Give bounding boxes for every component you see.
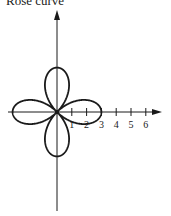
axes — [8, 10, 162, 211]
rose-curve-plot: 123456 — [0, 0, 171, 216]
y-axis-arrow-icon — [54, 10, 60, 20]
x-tick-label: 4 — [114, 119, 119, 130]
x-tick-label: 1 — [69, 119, 74, 130]
x-tick-label: 2 — [84, 119, 89, 130]
origin-point — [55, 110, 59, 114]
x-axis-arrow-icon — [152, 109, 162, 115]
x-tick-label: 3 — [99, 119, 104, 130]
x-tick-label: 5 — [129, 119, 134, 130]
x-axis-ticks: 123456 — [69, 108, 148, 130]
x-tick-label: 6 — [143, 119, 148, 130]
